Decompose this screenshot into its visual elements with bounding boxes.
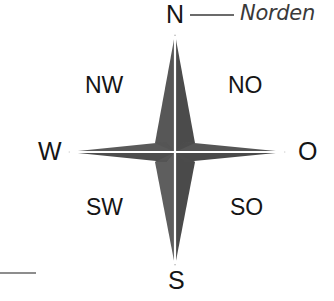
annotation-norden-label: Norden [240, 1, 315, 25]
label-southwest: SW [86, 196, 123, 219]
star-arm-north-left [155, 34, 175, 152]
star-arm-north-right [175, 34, 195, 152]
label-northeast: NO [228, 74, 263, 97]
compass-rose-figure: N O S W NW NO SW SO Norden [0, 0, 334, 301]
label-southeast: SO [230, 196, 263, 219]
star-arm-south-left [155, 152, 175, 266]
label-northwest: NW [85, 74, 123, 97]
label-west: W [38, 139, 62, 164]
star-arm-south-right [175, 152, 195, 266]
annotation-leader-line [190, 14, 234, 16]
corner-rule-mark [0, 272, 36, 274]
label-south: S [168, 268, 185, 293]
label-east: O [298, 139, 317, 164]
label-north: N [166, 2, 184, 27]
